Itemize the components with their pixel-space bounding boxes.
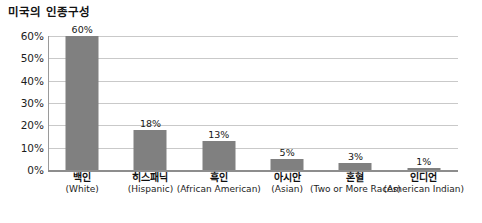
- bar[interactable]: [202, 141, 235, 170]
- bar-value-label: 18%: [140, 118, 161, 129]
- y-axis-tick-label: 60%: [0, 30, 44, 42]
- bar[interactable]: [339, 163, 372, 170]
- y-axis-tick-label: 10%: [0, 142, 44, 154]
- bar[interactable]: [271, 159, 304, 170]
- bar-slot: 3%: [321, 36, 389, 170]
- category-label-english: (American Indian): [376, 184, 472, 196]
- bar-value-label: 3%: [348, 151, 363, 162]
- bar[interactable]: [66, 36, 99, 170]
- x-axis-category-label: 인디언(American Indian): [376, 172, 472, 195]
- bar-value-label: 60%: [72, 24, 93, 35]
- bar-slot: 1%: [390, 36, 458, 170]
- bar-slot: 18%: [116, 36, 184, 170]
- bar[interactable]: [407, 168, 440, 170]
- bar-chart: 미국의 인종구성 60%50%40%30%20%10%0% 60%18%13%5…: [0, 0, 482, 223]
- bar-value-label: 1%: [416, 156, 431, 167]
- bar[interactable]: [134, 130, 167, 170]
- y-axis-tick-label: 20%: [0, 119, 44, 131]
- bar-slot: 5%: [253, 36, 321, 170]
- y-axis-tick-label: 50%: [0, 52, 44, 64]
- bar-slot: 13%: [185, 36, 253, 170]
- bar-value-label: 13%: [208, 129, 229, 140]
- y-axis-tick-label: 30%: [0, 97, 44, 109]
- y-axis-tick-label: 40%: [0, 75, 44, 87]
- x-axis-category-labels: 백인(White)히스패닉(Hispanic)흑인(African Americ…: [48, 172, 458, 223]
- bar-value-label: 5%: [280, 147, 295, 158]
- bar-slot: 60%: [48, 36, 116, 170]
- category-label-korean: 인디언: [376, 172, 472, 184]
